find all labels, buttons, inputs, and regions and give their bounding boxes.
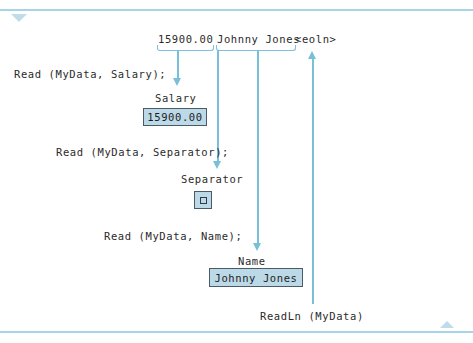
input-stream-token-eoln: <eoln> — [295, 33, 337, 46]
flow-arrow-readln-line — [312, 58, 314, 304]
variable-box-name: Johnny Jones — [209, 268, 303, 287]
bottom-rule — [0, 331, 473, 333]
triangle-down-icon — [11, 14, 27, 22]
variable-label-salary: Salary — [155, 92, 197, 105]
statement-read-salary: Read (MyData, Salary); — [14, 68, 166, 81]
flow-arrow-salary-line — [177, 50, 179, 80]
statement-read-name: Read (MyData, Name); — [104, 230, 242, 243]
variable-box-separator — [194, 191, 212, 209]
variable-label-name: Name — [238, 255, 266, 268]
flow-arrow-salary-head — [173, 78, 181, 86]
flow-arrow-name-head — [253, 243, 261, 251]
flow-arrow-separator-head — [213, 161, 221, 169]
top-rule — [0, 9, 473, 11]
statement-readln: ReadLn (MyData) — [260, 310, 364, 323]
stream-bracket-name — [216, 45, 296, 51]
space-character-icon — [200, 197, 207, 204]
stream-bracket-salary — [157, 45, 214, 51]
triangle-up-icon — [440, 321, 454, 328]
flow-arrow-readln-head — [308, 51, 316, 59]
variable-label-separator: Separator — [181, 173, 243, 186]
statement-read-separator: Read (MyData, Separator); — [56, 146, 229, 159]
read-statement-trace-diagram: 15900.00 Johnny Jones <eoln> Read (MyDat… — [0, 0, 473, 343]
flow-arrow-name-line — [257, 50, 259, 245]
variable-box-salary: 15900.00 — [143, 108, 207, 126]
